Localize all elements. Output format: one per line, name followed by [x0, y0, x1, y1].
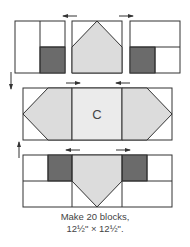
center-label: C: [92, 107, 101, 122]
caption-line-2: 12½" × 12½".: [0, 223, 190, 235]
bottom-row: [23, 150, 172, 207]
caption-line-1: Make 20 blocks,: [0, 211, 190, 223]
corner-unit-top-right: [130, 21, 180, 73]
dark-square-left: [48, 155, 72, 181]
flying-geese-up: [72, 21, 122, 73]
top-row: [15, 16, 180, 73]
dark-square-right: [122, 155, 147, 181]
corner-unit-top-left: [15, 21, 65, 73]
quilt-block-diagram: C: [0, 0, 190, 247]
caption: Make 20 blocks, 12½" × 12½".: [0, 211, 190, 235]
middle-row: C: [23, 83, 172, 140]
